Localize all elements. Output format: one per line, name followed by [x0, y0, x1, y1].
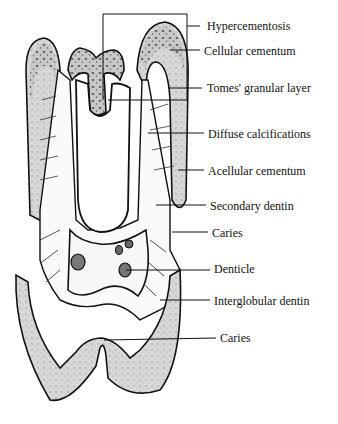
label-secondary-dentin: Secondary dentin — [210, 199, 294, 213]
label-acellular-cementum: Acellular cementum — [208, 164, 306, 178]
pulp-chamber — [68, 80, 148, 296]
label-caries-lower: Caries — [220, 331, 251, 345]
label-tomes-granular-layer: Tomes' granular layer — [207, 81, 311, 95]
label-diffuse-calcifications: Diffuse calcifications — [208, 127, 311, 141]
label-interglobular-dentin: Interglobular dentin — [214, 294, 309, 308]
label-caries-upper: Caries — [212, 226, 243, 240]
label-cellular-cementum: Cellular cementum — [204, 44, 296, 58]
label-denticle: Denticle — [214, 262, 255, 276]
label-hypercementosis: Hypercementosis — [207, 19, 290, 33]
